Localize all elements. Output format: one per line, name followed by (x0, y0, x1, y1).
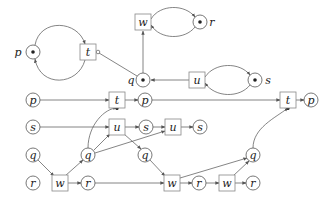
transition-label: w (138, 16, 148, 29)
place-label: p (29, 94, 36, 107)
unfold-place-q-9: q (246, 148, 260, 162)
transition-label: u (169, 121, 176, 134)
place-label: s (30, 121, 36, 134)
place-s: s (248, 73, 271, 87)
unfold-transition-u-2: u (109, 119, 125, 135)
unfold-place-r-12: r (192, 176, 206, 190)
unfold-place-r-11: r (81, 176, 95, 190)
place-label: r (196, 177, 202, 190)
petri-net-diagram: pqrstwupppsssqqqqrrrrttuuwww (0, 0, 333, 202)
place-label: q (249, 149, 256, 162)
unfold-transition-t-0: t (109, 92, 125, 108)
unfold-place-q-7: q (81, 148, 95, 162)
place-label: p (141, 94, 148, 107)
transition-label: t (86, 46, 91, 59)
place-label: r (30, 177, 36, 190)
token-dot (31, 50, 35, 54)
transition-t: t (80, 44, 96, 60)
token-dot (253, 78, 257, 82)
unfold-place-p-0: p (26, 93, 40, 107)
unfold-transition-w-4: w (52, 175, 68, 191)
transition-label: u (113, 121, 120, 134)
place-p: p (14, 45, 40, 59)
transition-label: w (55, 177, 65, 190)
unfold-place-q-6: q (26, 148, 40, 162)
unfold-place-s-5: s (193, 120, 207, 134)
unfold-transition-u-3: u (165, 119, 181, 135)
place-label: s (197, 121, 203, 134)
place-label: q (127, 74, 134, 87)
arcs (35, 7, 304, 183)
place-label: r (85, 177, 91, 190)
place-label: p (307, 94, 314, 107)
place-r: r (193, 15, 215, 29)
transition-label: w (167, 177, 177, 190)
unfold-place-p-1: p (138, 93, 152, 107)
place-label: q (29, 149, 36, 162)
place-label: r (209, 16, 215, 29)
unfold-place-s-4: s (139, 120, 153, 134)
place-label: r (250, 177, 256, 190)
place-label: s (143, 121, 149, 134)
unfold-transition-w-6: w (219, 175, 235, 191)
transition-label: t (286, 94, 291, 107)
unfold-place-r-10: r (26, 176, 40, 190)
transition-u: u (189, 72, 205, 88)
unfold-place-s-3: s (26, 120, 40, 134)
unfold-place-p-2: p (304, 93, 318, 107)
place-label: q (84, 149, 91, 162)
token-dot (141, 78, 145, 82)
transition-w: w (135, 14, 151, 30)
unfold-transition-w-5: w (164, 175, 180, 191)
transition-label: u (193, 74, 200, 87)
place-q: q (127, 73, 150, 87)
transition-label: w (222, 177, 232, 190)
place-label: p (14, 46, 21, 59)
unfold-transition-t-1: t (280, 92, 296, 108)
token-dot (198, 20, 202, 24)
unfold-place-r-13: r (246, 176, 260, 190)
transition-label: t (115, 94, 120, 107)
place-label: s (265, 74, 271, 87)
place-label: q (141, 149, 148, 162)
nodes: pqrstwupppsssqqqqrrrrttuuwww (14, 14, 318, 191)
unfold-place-q-8: q (138, 148, 152, 162)
